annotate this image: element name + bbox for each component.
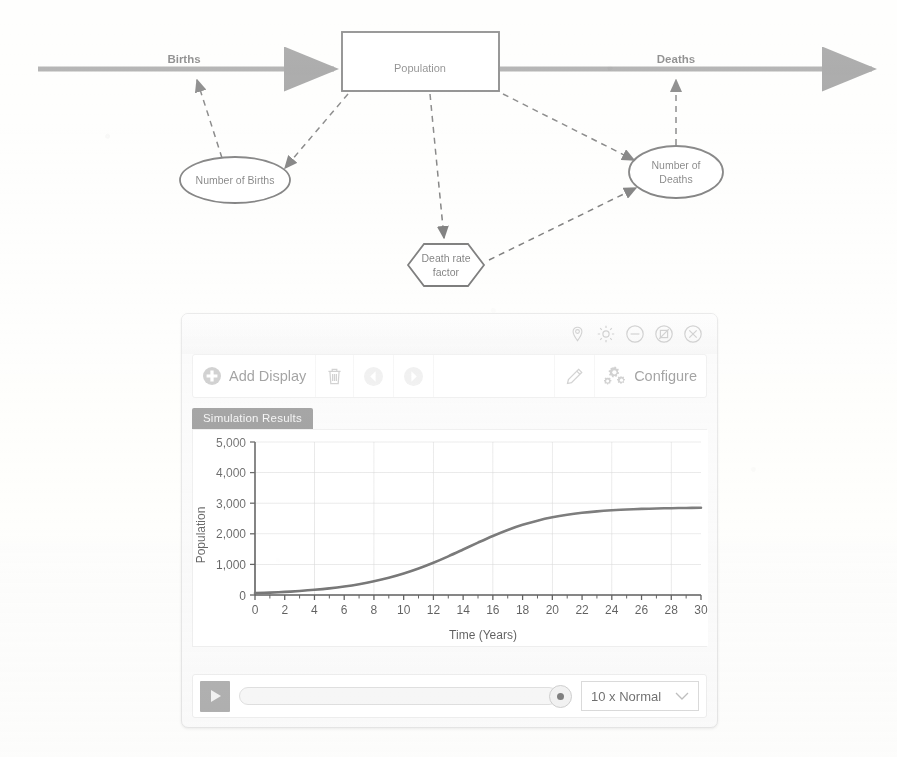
back-button[interactable]	[354, 355, 394, 397]
chart-x-tick-label: 26	[635, 603, 649, 617]
tab-simulation-results-label: Simulation Results	[203, 412, 302, 424]
configure-button[interactable]: Configure	[595, 355, 706, 397]
toolbar-spacer	[434, 355, 555, 397]
chart-y-axis-title: Population	[194, 507, 208, 564]
gear-icon[interactable]	[594, 322, 618, 346]
births-flow-label: Births	[167, 53, 200, 65]
population-line-chart: 024681012141618202224262830 01,0002,0003…	[193, 430, 708, 646]
tab-simulation-results[interactable]: Simulation Results	[192, 408, 313, 429]
link-births-to-valve	[197, 80, 222, 158]
deaths-flow-label: Deaths	[657, 53, 695, 65]
chart-x-tick-label: 12	[427, 603, 441, 617]
edit-button[interactable]	[555, 355, 595, 397]
chart-x-axis-title: Time (Years)	[449, 628, 517, 642]
trash-icon	[325, 366, 344, 386]
speed-select[interactable]: 10 x Normal	[581, 681, 699, 711]
maximize-icon[interactable]	[652, 322, 676, 346]
stock-population-label: Population	[394, 62, 446, 74]
chart-x-tick-label: 10	[397, 603, 411, 617]
variable-death-rate-factor-line2: factor	[433, 266, 460, 278]
chart-x-tick-label: 18	[516, 603, 530, 617]
stock-flow-diagram: Population Births Deaths Number of Birth…	[0, 0, 897, 305]
window-titlebar	[182, 314, 717, 354]
chart-x-tick-label: 24	[605, 603, 619, 617]
minimize-icon[interactable]	[623, 322, 647, 346]
speed-select-value: 10 x Normal	[591, 689, 661, 704]
slider-thumb[interactable]	[549, 685, 572, 708]
variable-number-of-deaths: Number of Deaths	[629, 146, 723, 198]
forward-button[interactable]	[394, 355, 434, 397]
variable-number-of-deaths-line2: Deaths	[659, 173, 692, 185]
link-population-to-number-of-births	[285, 94, 348, 168]
link-death-rate-factor-to-number-of-deaths	[489, 188, 636, 260]
simulation-window: Add Display	[181, 313, 718, 728]
chart-x-tick-label: 8	[371, 603, 378, 617]
chart-panel: 024681012141618202224262830 01,0002,0003…	[192, 429, 707, 647]
chart-y-tick-label: 3,000	[216, 497, 246, 511]
chevron-down-icon	[675, 689, 689, 704]
gears-icon	[604, 365, 627, 387]
variable-number-of-deaths-line1: Number of	[651, 159, 700, 171]
chart-y-tick-label: 4,000	[216, 466, 246, 480]
chart-x-tick-label: 2	[281, 603, 288, 617]
chart-x-tick-label: 16	[486, 603, 500, 617]
chart-x-tick-label: 28	[665, 603, 679, 617]
chart-y-tick-label: 0	[239, 589, 246, 603]
play-button[interactable]	[200, 681, 230, 712]
chart-x-tick-label: 20	[546, 603, 560, 617]
chart-y-tick-label: 2,000	[216, 527, 246, 541]
link-population-to-number-of-deaths	[503, 94, 634, 160]
variable-death-rate-factor-line1: Death rate	[421, 252, 470, 264]
chart-y-tick-label: 5,000	[216, 436, 246, 450]
tab-strip: Simulation Results	[192, 407, 717, 429]
chart-x-tick-label: 22	[575, 603, 589, 617]
pin-icon[interactable]	[565, 322, 589, 346]
add-display-button[interactable]: Add Display	[193, 355, 316, 397]
playback-bar: 10 x Normal	[192, 674, 707, 718]
delete-button[interactable]	[316, 355, 354, 397]
close-icon[interactable]	[681, 322, 705, 346]
stock-population: Population	[342, 32, 499, 91]
chart-x-tick-label: 6	[341, 603, 348, 617]
chart-x-tick-label: 14	[456, 603, 470, 617]
chart-x-tick-label: 0	[252, 603, 259, 617]
variable-number-of-births-label: Number of Births	[196, 174, 275, 186]
configure-label: Configure	[634, 368, 697, 384]
chevron-left-circle-icon	[363, 366, 384, 387]
link-population-to-death-rate-factor	[430, 94, 444, 238]
variable-number-of-births: Number of Births	[180, 157, 290, 203]
slider-track[interactable]	[239, 687, 558, 705]
main-toolbar: Add Display	[192, 354, 707, 398]
chart-x-tick-label: 4	[311, 603, 318, 617]
speed-slider[interactable]	[239, 685, 572, 707]
chart-y-tick-label: 1,000	[216, 558, 246, 572]
chart-x-tick-label: 30	[694, 603, 708, 617]
add-display-label: Add Display	[229, 368, 306, 384]
plus-circle-icon	[202, 366, 222, 386]
chevron-right-circle-icon	[403, 366, 424, 387]
variable-death-rate-factor: Death rate factor	[408, 244, 484, 286]
pencil-icon	[564, 366, 585, 387]
